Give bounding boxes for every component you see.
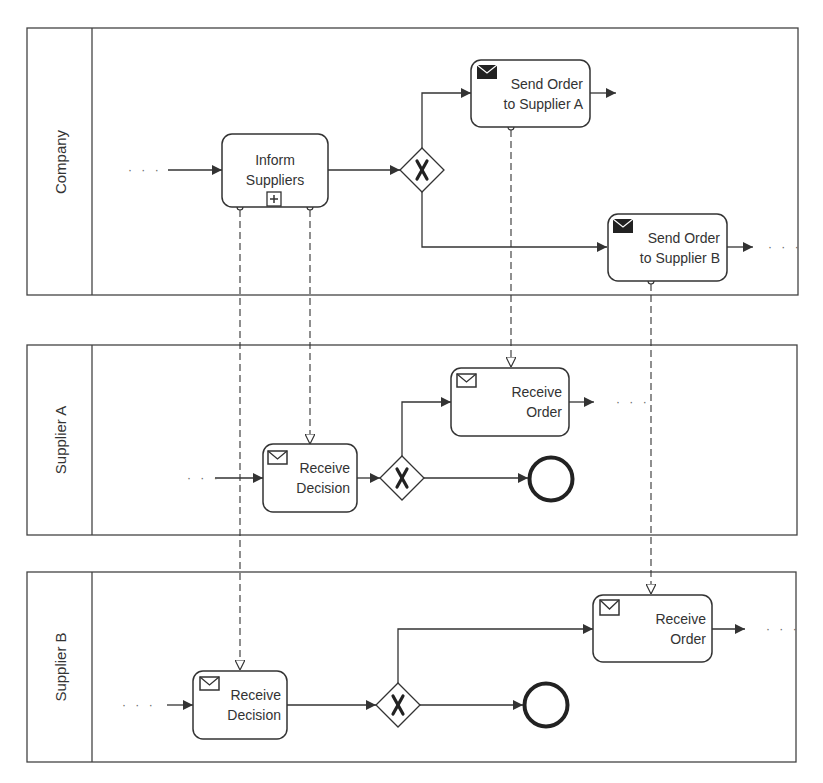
continuation-supplier-b-out: · · · — [766, 622, 800, 636]
message-flows — [240, 130, 651, 670]
task-supplier-a-receive-decision[interactable]: Receive Decision — [263, 444, 357, 512]
task-label-line2: to Supplier B — [640, 250, 720, 266]
continuation-company-out: · · · — [768, 240, 802, 254]
task-label-line1: Receive — [655, 611, 706, 627]
task-send-order-supplier-a[interactable]: Send Order to Supplier A — [471, 60, 590, 127]
task-inform-suppliers[interactable]: Inform Suppliers — [222, 134, 328, 207]
continuation-company-in: · · · — [128, 163, 162, 177]
receive-envelope-outline-icon — [200, 677, 219, 690]
gateway-supplier-b-exclusive[interactable] — [376, 683, 420, 727]
task-label-line1: Send Order — [511, 76, 584, 92]
gateway-supplier-a-exclusive[interactable] — [380, 456, 424, 500]
task-label-line2: Order — [670, 631, 706, 647]
end-event-supplier-b[interactable] — [525, 684, 568, 727]
bpmn-diagram: Company Supplier A Supplier B · · · · · … — [0, 0, 823, 783]
task-label-line1: Receive — [230, 687, 281, 703]
task-label-line1: Inform — [255, 152, 295, 168]
continuation-supplier-b-in: · · · — [122, 698, 156, 712]
collapsed-subprocess-plus-icon[interactable] — [267, 192, 281, 206]
send-envelope-filled-icon — [613, 219, 633, 233]
pool-label-supplier-b: Supplier B — [52, 632, 69, 701]
task-label-line2: Decision — [227, 707, 281, 723]
task-label-line1: Receive — [299, 460, 350, 476]
pool-label-company: Company — [52, 129, 69, 194]
receive-envelope-outline-icon — [268, 451, 287, 464]
task-supplier-b-receive-decision[interactable]: Receive Decision — [193, 671, 287, 739]
continuation-supplier-a-out: · · · — [616, 395, 650, 409]
receive-envelope-outline-icon — [457, 374, 476, 387]
task-label-line2: Decision — [296, 480, 350, 496]
continuation-supplier-a-in: · · · — [187, 471, 221, 485]
gateway-company-exclusive[interactable] — [400, 148, 444, 192]
end-event-supplier-a[interactable] — [530, 458, 573, 501]
send-envelope-filled-icon — [477, 65, 497, 79]
task-label-line2: Suppliers — [246, 172, 304, 188]
receive-envelope-outline-icon — [600, 600, 619, 615]
task-label-line1: Receive — [511, 384, 562, 400]
pool-label-supplier-a: Supplier A — [52, 406, 69, 474]
task-label-line2: Order — [526, 404, 562, 420]
task-label-line1: Send Order — [648, 230, 721, 246]
task-supplier-a-receive-order[interactable]: Receive Order — [451, 368, 569, 436]
task-supplier-b-receive-order[interactable]: Receive Order — [593, 595, 712, 662]
pool-supplier-a: Supplier A — [27, 345, 797, 535]
task-send-order-supplier-b[interactable]: Send Order to Supplier B — [608, 214, 727, 281]
task-label-line2: to Supplier A — [504, 96, 584, 112]
